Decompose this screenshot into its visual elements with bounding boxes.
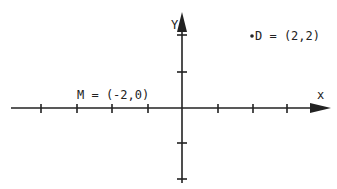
x-axis-arrow-icon (310, 103, 331, 113)
point-m-label: M = (-2,0) (77, 88, 149, 102)
x-axis: x (11, 88, 331, 113)
point-d-marker-icon (250, 34, 254, 38)
coordinate-plane-diagram: x Y M = (-2,0) D = (2,2) (0, 0, 337, 189)
y-axis: Y (171, 12, 187, 183)
diagram-svg: x Y M = (-2,0) D = (2,2) (0, 0, 337, 189)
y-axis-arrow-icon (177, 12, 187, 32)
point-d-label: D = (2,2) (255, 29, 320, 43)
x-axis-label: x (317, 88, 324, 102)
y-axis-label: Y (171, 18, 179, 32)
